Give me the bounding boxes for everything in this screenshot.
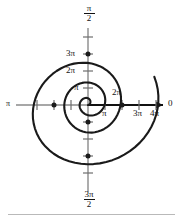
dot-pi-angle270 (86, 120, 91, 125)
x-tick-label-4pi: 4π (150, 109, 159, 118)
x-tick-label-pi: π (102, 109, 107, 118)
axis-label-3pi-over-2: 3π 2 (79, 190, 99, 210)
axis-label-pi-left: π (6, 100, 10, 108)
x-tick-label-3pi: 3π (133, 109, 142, 118)
axis-label-pi-over-2: π 2 (81, 4, 97, 24)
y-tick-label-3pi: 3π (66, 49, 75, 58)
curve-label-2pi: 2π (112, 88, 121, 97)
y-tick-label-pi: π (74, 83, 79, 92)
dot-3pi-angle270 (86, 154, 91, 159)
dot-3pi-angle90 (86, 52, 91, 57)
y-tick-label-2pi: 2π (66, 66, 75, 75)
axis-label-zero: 0 (168, 99, 173, 108)
polar-spiral-figure: π 2 3π 2 π 0 3π 2π π π 3π 4π 2π (0, 0, 183, 222)
dot-2pi-angle0 (120, 103, 125, 108)
dot-3pi-angle180 (52, 103, 57, 108)
bottom-separator (8, 214, 175, 215)
